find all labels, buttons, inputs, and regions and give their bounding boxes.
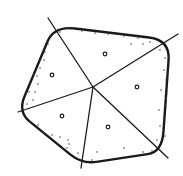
sector-circle-4 xyxy=(60,114,64,118)
sector-divider-line-3 xyxy=(93,87,168,158)
border-dot xyxy=(156,139,158,141)
pentagon-sector-diagram xyxy=(0,0,183,176)
sector-divider-line-5 xyxy=(18,87,93,112)
border-dot xyxy=(165,79,167,81)
border-dot xyxy=(43,59,45,61)
border-dot xyxy=(165,97,167,99)
border-dot xyxy=(81,30,83,32)
border-dot xyxy=(68,143,70,145)
border-dot xyxy=(123,35,125,37)
border-dot xyxy=(159,125,161,127)
border-dot xyxy=(91,159,93,161)
border-dot xyxy=(137,37,139,39)
border-dot xyxy=(164,135,166,137)
border-dot xyxy=(69,28,71,30)
sector-circle-1 xyxy=(103,52,107,56)
sector-divider-line-2 xyxy=(93,34,178,87)
border-dot xyxy=(36,75,38,77)
border-dots xyxy=(26,28,167,161)
sector-circle-5 xyxy=(106,125,110,129)
border-dot xyxy=(49,35,51,37)
border-dot xyxy=(59,31,61,33)
border-dot xyxy=(142,151,144,153)
border-dot xyxy=(107,33,109,35)
pentagon-outline xyxy=(22,28,169,162)
border-dot xyxy=(28,91,30,93)
border-dot xyxy=(160,89,162,91)
border-dot xyxy=(67,139,69,141)
border-dot xyxy=(44,51,46,53)
border-dot xyxy=(123,147,125,149)
border-dot xyxy=(151,150,153,152)
border-dot xyxy=(26,103,28,105)
border-dot xyxy=(159,49,161,51)
border-dot xyxy=(66,147,68,149)
border-dot xyxy=(163,69,165,71)
border-dot xyxy=(34,91,36,93)
sector-dividers xyxy=(18,18,178,168)
border-dot xyxy=(94,32,96,34)
border-dot xyxy=(29,121,31,123)
border-dot xyxy=(130,43,132,45)
border-dot xyxy=(59,136,61,138)
border-dot xyxy=(51,134,53,136)
border-dot xyxy=(42,131,44,133)
border-dot xyxy=(32,99,34,101)
border-dot xyxy=(47,43,49,45)
border-dot xyxy=(37,83,39,85)
border-dot xyxy=(39,67,41,69)
border-dot xyxy=(77,152,79,154)
border-dot xyxy=(158,109,160,111)
sector-circle-2 xyxy=(50,73,54,77)
border-dot xyxy=(37,124,39,126)
border-dot xyxy=(96,151,98,153)
border-dot xyxy=(142,43,144,45)
sector-divider-line-4 xyxy=(81,87,93,168)
sector-circle-3 xyxy=(135,85,139,89)
pentagon-outline-path xyxy=(22,28,169,162)
border-dot xyxy=(163,117,165,119)
border-dot xyxy=(149,41,151,43)
border-dot xyxy=(164,57,166,59)
